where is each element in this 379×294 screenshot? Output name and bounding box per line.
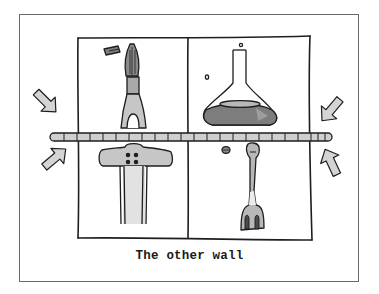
arrow-left-lower [38, 141, 72, 174]
paintbrush-icon [104, 44, 146, 128]
arrow-right-lower [316, 145, 346, 179]
caption: The other wall [0, 249, 379, 263]
flask-icon [203, 43, 276, 125]
t-bracket-icon [99, 144, 172, 224]
arrow-right-upper [314, 93, 347, 127]
shelf [50, 133, 332, 141]
fork-icon [222, 143, 264, 230]
arrow-left-upper [29, 85, 63, 119]
